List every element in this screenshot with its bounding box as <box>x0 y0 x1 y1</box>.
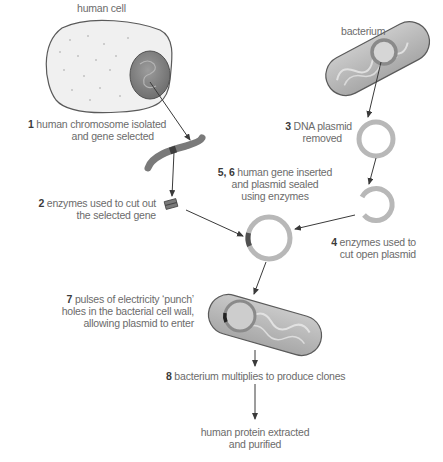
human-cell <box>46 20 172 112</box>
genetic-engineering-diagram <box>0 0 443 462</box>
step-4-line1: enzymes used to <box>340 236 416 248</box>
step-1-line2: and gene selected <box>72 130 154 142</box>
label-bacterium: bacterium <box>341 25 385 37</box>
step-5-6-label: 5, 6 human gene inserted and plasmid sea… <box>210 166 340 202</box>
step-7-label: 7 pulses of electricity ‘punch’ holes in… <box>34 293 194 329</box>
step-7-line3: allowing plasmid to enter <box>83 317 194 329</box>
final-label: human protein extracted and purified <box>185 426 325 450</box>
step-5-6-line3: using enzymes <box>241 190 308 202</box>
step-7-line2: holes in the bacterial cell wall, <box>62 305 194 317</box>
step-5-6-line2: and plasmid sealed <box>232 178 319 190</box>
step-3-line1: DNA plasmid <box>294 120 353 132</box>
step-5-6-line1: human gene inserted <box>237 166 332 178</box>
step-2-label: 2 enzymes used to cut out the selected g… <box>30 197 156 221</box>
step-4-label: 4 enzymes used to cut open plasmid <box>330 236 416 260</box>
step-2-line2: the selected gene <box>77 209 157 221</box>
step-7-number: 7 <box>67 293 73 305</box>
transformed-bacterium <box>204 290 327 360</box>
label-human-cell: human cell <box>77 2 126 14</box>
plasmid-removed <box>359 122 393 156</box>
step-5-6-number: 5, 6 <box>218 166 235 178</box>
step-3-number: 3 <box>285 120 291 132</box>
step-7-line1: pulses of electricity ‘punch’ <box>75 293 194 305</box>
step-8-number: 8 <box>166 370 172 382</box>
step-3-label: 3 DNA plasmid removed <box>272 120 352 144</box>
step-1-label: 1 human chromosome isolated and gene sel… <box>28 118 154 142</box>
plasmid-in-bacterium <box>372 40 396 64</box>
recombinant-plasmid <box>248 217 290 259</box>
nucleus <box>130 51 170 99</box>
step-2-line1: enzymes used to cut out <box>47 197 156 209</box>
step-2-number: 2 <box>38 197 44 209</box>
final-line2: and purified <box>229 438 281 450</box>
plasmid-cut-open <box>362 189 392 221</box>
step-4-line2: cut open plasmid <box>340 248 416 260</box>
step-1-number: 1 <box>28 118 34 130</box>
step-8-label: 8 bacterium multiplies to produce clones <box>166 370 345 382</box>
cut-gene <box>164 199 178 210</box>
step-8-line1: bacterium multiplies to produce clones <box>174 370 345 382</box>
step-1-line1: human chromosome isolated <box>36 118 166 130</box>
step-4-number: 4 <box>331 236 337 248</box>
plasmid-in-new-bacterium <box>225 301 255 331</box>
step-3-line2: removed <box>303 132 342 144</box>
final-line1: human protein extracted <box>201 426 310 438</box>
